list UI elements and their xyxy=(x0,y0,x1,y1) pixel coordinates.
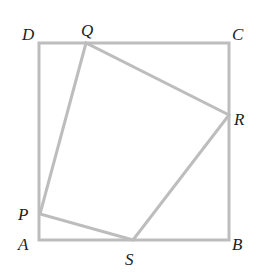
label-s: S xyxy=(125,250,134,269)
label-b: B xyxy=(232,235,243,254)
label-a: A xyxy=(17,235,29,254)
geometry-diagram: D Q C R P A S B xyxy=(0,0,259,275)
quadrilateral-pqrs xyxy=(40,43,229,240)
label-c: C xyxy=(232,25,244,44)
label-q: Q xyxy=(81,21,93,40)
label-d: D xyxy=(21,25,35,44)
label-p: P xyxy=(17,205,28,224)
square-abcd xyxy=(39,43,229,240)
vertex-labels: D Q C R P A S B xyxy=(17,21,245,269)
label-r: R xyxy=(233,110,245,129)
